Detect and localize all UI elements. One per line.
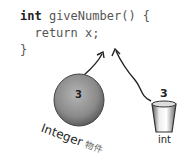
int-cup-icon (152, 101, 176, 132)
arrow-from-integer-icon (84, 52, 104, 75)
integer-value: 3 (75, 89, 82, 100)
int-value: 3 (160, 87, 168, 100)
arrow-from-int-icon (112, 49, 151, 101)
integer-object-icon (54, 74, 104, 126)
diagram-graphics (0, 0, 190, 153)
integer-label-cn: 物件 (84, 140, 104, 153)
int-label: int (158, 134, 171, 145)
